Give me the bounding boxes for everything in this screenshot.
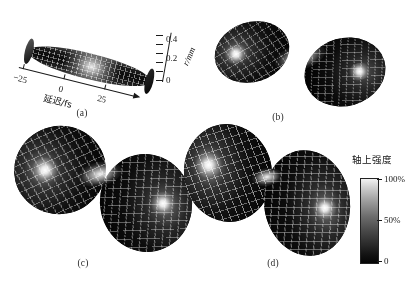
r-axis-tick [156, 62, 163, 63]
x-axis-tick-label: 0 [58, 83, 65, 94]
r-axis-radius: 0.4 0.2 0 r/mm [152, 30, 198, 88]
bowtie-surface-b [212, 14, 402, 112]
r-axis-tick [156, 71, 163, 72]
panel-label-d: (d) [253, 258, 293, 268]
r-axis-title: r/mm [180, 46, 197, 67]
r-axis-tick [156, 80, 163, 81]
lobe-mesh-grid [257, 145, 357, 262]
r-axis-tick [156, 53, 163, 54]
x-axis-tick-label: 25 [96, 93, 107, 105]
r-axis-tick-label: 0.4 [166, 34, 177, 44]
x-axis-arrow-icon [133, 93, 141, 101]
r-axis-tick-label: 0.2 [166, 53, 177, 63]
colorbar-tick [377, 179, 382, 180]
panel-a: −25 0 25 延迟/fs 0.4 0.2 0 r/mm (a) [0, 0, 205, 125]
colorbar-tick [377, 261, 382, 262]
colorbar-tick-label: 100% [384, 174, 405, 184]
bowtie-surface-d [184, 124, 350, 258]
lobe-right-d [257, 145, 357, 262]
colorbar-tick-label: 50% [384, 215, 401, 225]
colorbar-gradient [360, 178, 379, 264]
panel-label-b: (b) [258, 112, 298, 122]
r-axis-tick [156, 44, 163, 45]
colorbar-tick-label: 0 [384, 256, 389, 266]
x-axis-tick-label: −25 [12, 72, 28, 85]
r-axis-tick [156, 35, 163, 36]
bowtie-surface-c [14, 126, 192, 256]
figure-canvas: −25 0 25 延迟/fs 0.4 0.2 0 r/mm (a) [0, 0, 416, 283]
panel-label-a: (a) [62, 108, 102, 118]
colorbar-title: 轴上强度 [352, 152, 392, 166]
r-axis-tick-label: 0 [166, 75, 171, 85]
colorbar-tick [377, 220, 382, 221]
panel-label-c: (c) [63, 258, 103, 268]
colorbar-legend: 轴上强度 100% 50% 0 [352, 152, 416, 274]
